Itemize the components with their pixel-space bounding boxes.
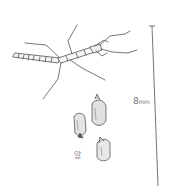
scale-bar-label: 8mm	[133, 96, 150, 106]
egg-middle	[92, 94, 106, 125]
scale-bar	[149, 26, 158, 186]
specimen-illustration: 8mm 알	[0, 0, 169, 186]
insect-thorax	[58, 47, 95, 63]
egg-label: 알	[74, 152, 81, 160]
insect-legs	[25, 25, 108, 99]
egg-bottom	[97, 137, 110, 161]
insect-abdomen	[13, 53, 60, 63]
insect-drawing	[0, 0, 169, 186]
insect-antennae	[100, 31, 137, 53]
scale-bar-unit: mm	[138, 98, 149, 105]
egg-left	[74, 113, 86, 138]
